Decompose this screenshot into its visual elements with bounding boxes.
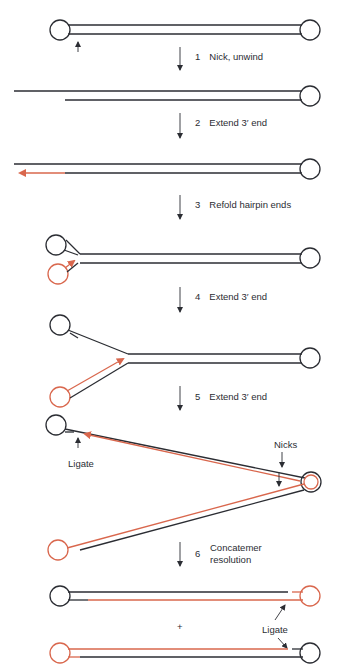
product-1 <box>50 586 320 606</box>
extended-duplex <box>14 159 320 179</box>
v-concatemer <box>46 415 321 560</box>
refolded-hairpins <box>46 235 320 284</box>
step-6-num: 6 <box>195 548 200 559</box>
y-fork-structure <box>50 315 320 407</box>
step-4-label: 4Extend 3′ end <box>195 291 267 302</box>
nicks-label: Nicks <box>274 439 297 450</box>
ligate-arrow-1-icon <box>275 605 285 620</box>
replication-diagram: 1Nick, unwind 2Extend 3′ end 3Refold hai… <box>0 0 337 671</box>
step-5-label: 5Extend 3′ end <box>195 391 267 402</box>
step-2-label: 2Extend 3′ end <box>195 117 267 128</box>
plus-sign: + <box>177 621 183 632</box>
product-2 <box>50 643 320 663</box>
initial-duplex <box>50 20 320 52</box>
step-1-label: 1Nick, unwind <box>195 51 263 62</box>
step-6-label-line1: Concatemer <box>210 542 262 553</box>
unwound-duplex <box>14 86 320 106</box>
step-6-label-line2: resolution <box>210 554 251 565</box>
ligate-label-final: Ligate <box>262 624 288 635</box>
ligate-arrow-2-icon <box>278 638 287 648</box>
ligate-label-step5: Ligate <box>68 458 94 469</box>
step-3-label: 3Refold hairpin ends <box>195 199 291 210</box>
